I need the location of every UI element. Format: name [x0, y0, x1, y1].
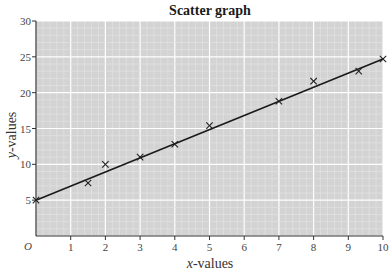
chart-title: Scatter graph — [169, 3, 251, 18]
origin-label: O — [24, 240, 32, 252]
x-tick-label: 5 — [207, 241, 213, 253]
x-axis-label: x-values — [186, 256, 234, 271]
x-tick-label: 6 — [241, 241, 247, 253]
y-tick-label: 30 — [20, 15, 32, 27]
y-tick-label: 15 — [20, 123, 32, 135]
y-tick-label: 10 — [20, 158, 32, 170]
y-tick-label: 5 — [26, 194, 32, 206]
x-tick-label: 2 — [103, 241, 109, 253]
y-tick-label: 20 — [20, 87, 32, 99]
y-tick-label: 25 — [20, 51, 32, 63]
x-tick-label: 10 — [378, 241, 390, 253]
scatter-chart: 1234567891051015202530 Scatter graph O x… — [0, 0, 392, 272]
x-tick-label: 1 — [68, 241, 74, 253]
x-tick-label: 8 — [311, 241, 317, 253]
x-tick-label: 9 — [346, 241, 352, 253]
y-axis-label: y-values — [4, 112, 19, 161]
x-tick-label: 3 — [137, 241, 143, 253]
x-tick-label: 7 — [276, 241, 282, 253]
x-tick-label: 4 — [172, 241, 178, 253]
